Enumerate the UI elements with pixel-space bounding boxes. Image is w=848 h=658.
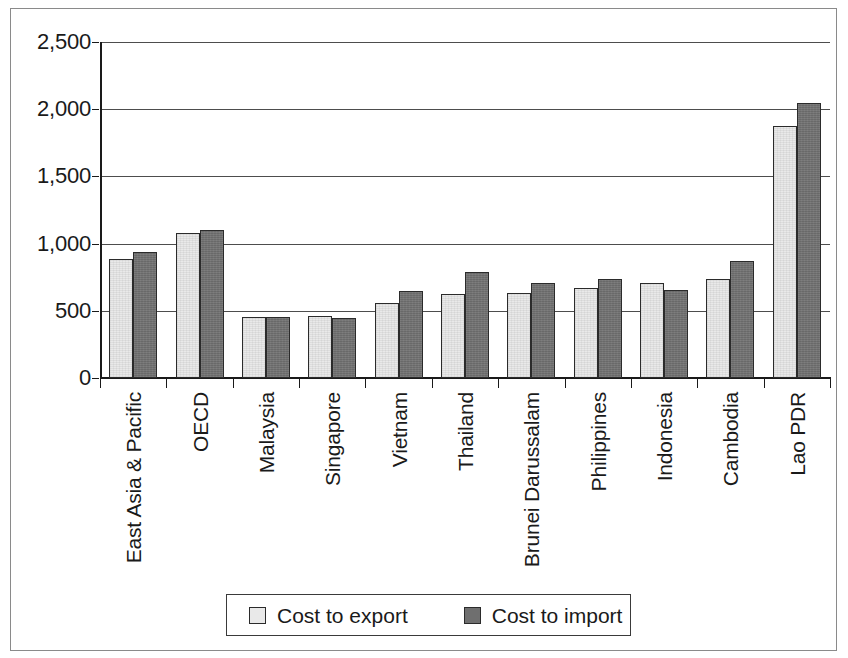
x-axis-tick xyxy=(100,379,101,388)
legend-item-cost-to-import: Cost to import xyxy=(464,605,623,626)
bar-group xyxy=(166,42,232,378)
bar-import xyxy=(332,318,356,378)
bar-export xyxy=(507,293,531,378)
bar-export xyxy=(308,316,332,378)
bar-import xyxy=(730,261,754,378)
bar-group xyxy=(498,42,564,378)
bar-export xyxy=(441,294,465,378)
x-axis-tick xyxy=(166,379,167,388)
bar-group xyxy=(299,42,365,378)
y-axis-tick xyxy=(92,176,99,177)
bar-import xyxy=(531,283,555,378)
legend-swatch-import-icon xyxy=(464,607,481,624)
y-axis-tick xyxy=(92,109,99,110)
x-axis-tick-label: Singapore xyxy=(322,392,343,486)
y-axis-tick-label: 500 xyxy=(1,300,91,322)
x-axis-tick-label: OECD xyxy=(190,392,211,452)
y-axis-tick-label: 1,000 xyxy=(1,233,91,255)
bar-group xyxy=(100,42,166,378)
bar-import xyxy=(200,230,224,379)
x-axis-tick-label: Vietnam xyxy=(389,392,410,467)
y-axis-tick-label: 2,500 xyxy=(1,31,91,53)
y-axis-tick xyxy=(92,311,99,312)
chart-figure: 05001,0001,5002,0002,500 East Asia & Pac… xyxy=(0,0,848,658)
bar-import xyxy=(133,252,157,378)
x-axis-tick-label: Philippines xyxy=(588,392,609,491)
bar-export xyxy=(109,259,133,378)
bar-group xyxy=(697,42,763,378)
y-axis-tick xyxy=(92,244,99,245)
x-axis-tick xyxy=(565,379,566,388)
chart-legend: Cost to export Cost to import xyxy=(226,594,631,636)
x-axis-tick-label: Thailand xyxy=(455,392,476,471)
bar-group xyxy=(764,42,830,378)
bar-import xyxy=(465,272,489,378)
bar-import xyxy=(399,291,423,378)
bar-export xyxy=(375,303,399,378)
x-axis-tick-label: Cambodia xyxy=(720,392,741,486)
x-axis-tick xyxy=(697,379,698,388)
bar-group xyxy=(432,42,498,378)
x-axis-tick xyxy=(299,379,300,388)
bar-group xyxy=(233,42,299,378)
legend-label-import: Cost to import xyxy=(492,605,623,626)
y-axis-tick xyxy=(92,42,99,43)
figure-border-right xyxy=(836,8,837,650)
y-axis-tick-label: 1,500 xyxy=(1,165,91,187)
x-axis-tick xyxy=(233,379,234,388)
bar-export xyxy=(242,317,266,378)
x-axis-tick-label: Malaysia xyxy=(256,392,277,473)
x-axis-tick xyxy=(432,379,433,388)
legend-swatch-export-icon xyxy=(249,607,266,624)
bar-import xyxy=(598,279,622,378)
bar-import xyxy=(266,317,290,378)
bar-group xyxy=(631,42,697,378)
y-axis-tick-label: 0 xyxy=(1,367,91,389)
x-axis-tick-label: East Asia & Pacific xyxy=(123,392,144,563)
bar-group xyxy=(565,42,631,378)
bar-export xyxy=(706,279,730,378)
bar-import xyxy=(664,290,688,378)
figure-border-bottom xyxy=(10,650,837,651)
x-axis-tick xyxy=(365,379,366,388)
x-axis-tick xyxy=(631,379,632,388)
x-axis-tick xyxy=(764,379,765,388)
legend-item-cost-to-export: Cost to export xyxy=(249,605,408,626)
legend-label-export: Cost to export xyxy=(277,605,408,626)
bar-group xyxy=(365,42,431,378)
x-axis-tick-label: Lao PDR xyxy=(787,392,808,476)
x-axis-tick xyxy=(830,379,831,388)
bar-export xyxy=(773,126,797,378)
bar-export xyxy=(574,288,598,378)
figure-border-top xyxy=(10,8,837,9)
bar-export xyxy=(640,283,664,378)
y-axis-tick-label: 2,000 xyxy=(1,98,91,120)
bar-export xyxy=(176,233,200,378)
y-axis-tick xyxy=(92,378,99,379)
bar-import xyxy=(797,103,821,378)
plot-area xyxy=(100,42,830,378)
x-axis-tick-label: Brunei Darussalam xyxy=(521,392,542,567)
x-axis-tick-label: Indonesia xyxy=(654,392,675,481)
x-axis-tick xyxy=(498,379,499,388)
